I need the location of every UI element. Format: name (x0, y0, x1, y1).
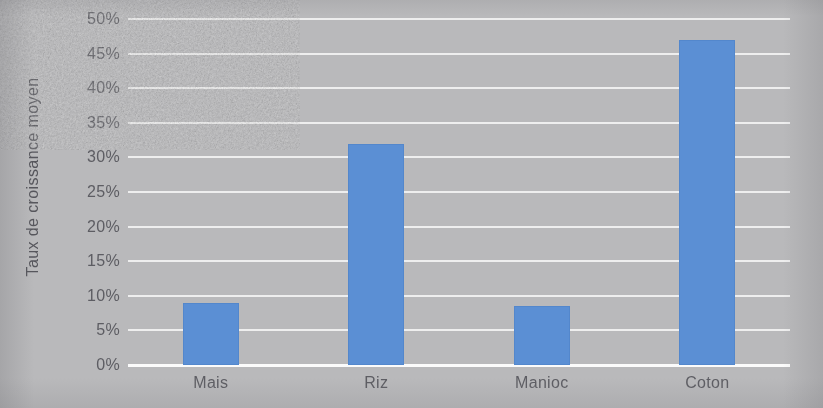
y-axis-tick-label: 15% (58, 252, 120, 270)
bar (514, 306, 570, 365)
x-axis-labels: MaisRizManiocCoton (128, 374, 790, 402)
y-axis-tick-label: 10% (58, 287, 120, 305)
y-axis-tick-label: 20% (58, 218, 120, 236)
y-axis-ticks: 0%5%10%15%20%25%30%35%40%45%50% (58, 19, 120, 365)
y-axis-tick-label: 25% (58, 183, 120, 201)
bar (183, 303, 239, 365)
x-axis-category-label: Manioc (515, 374, 568, 392)
bar-chart: 0%5%10%15%20%25%30%35%40%45%50% Taux de … (0, 0, 823, 408)
y-axis-tick-label: 45% (58, 45, 120, 63)
x-axis-category-label: Mais (193, 374, 228, 392)
y-axis-title: Taux de croissance moyen (24, 62, 42, 292)
x-axis-category-label: Riz (364, 374, 388, 392)
bar (679, 40, 735, 365)
y-axis-tick-label: 5% (58, 321, 120, 339)
x-axis-category-label: Coton (685, 374, 729, 392)
y-axis-tick-label: 30% (58, 148, 120, 166)
y-axis-tick-label: 40% (58, 79, 120, 97)
y-axis-tick-label: 50% (58, 10, 120, 28)
bar (348, 144, 404, 365)
y-axis-tick-label: 35% (58, 114, 120, 132)
bars-group (128, 19, 790, 365)
y-axis-tick-label: 0% (58, 356, 120, 374)
